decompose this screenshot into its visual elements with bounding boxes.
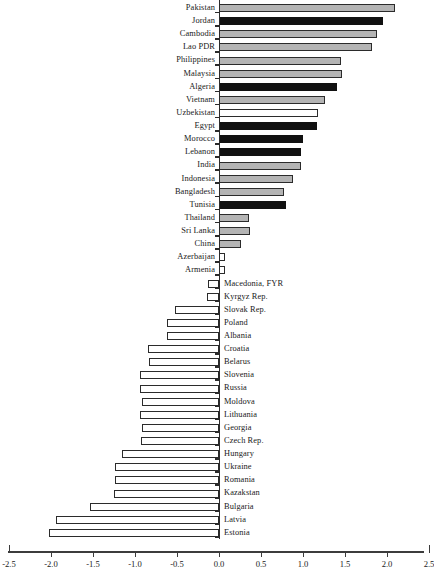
- category-label: Albania: [224, 329, 251, 342]
- category-label: Jordan: [0, 14, 215, 27]
- category-tick: [215, 38, 219, 40]
- bar: [219, 109, 318, 117]
- x-tick: [261, 551, 262, 557]
- category-tick: [215, 379, 219, 381]
- category-label: Macedonia, FYR: [224, 277, 283, 290]
- category-label: Cambodia: [0, 27, 215, 40]
- category-tick: [215, 392, 219, 394]
- category-tick: [215, 471, 219, 473]
- category-tick: [215, 366, 219, 368]
- category-tick: [215, 287, 219, 289]
- category-tick: [215, 64, 219, 66]
- bar: [219, 162, 301, 170]
- category-label: Moldova: [224, 395, 255, 408]
- category-label: Lebanon: [0, 145, 215, 158]
- category-tick: [215, 419, 219, 421]
- bar: [219, 135, 303, 143]
- category-label: Bulgaria: [224, 500, 254, 513]
- x-tick: [135, 551, 136, 557]
- category-tick: [215, 406, 219, 408]
- category-label: Georgia: [224, 421, 252, 434]
- category-tick: [215, 156, 219, 158]
- category-tick: [215, 78, 219, 80]
- bar: [140, 411, 219, 419]
- x-tick-label: 0.5: [256, 559, 267, 569]
- bar: [219, 188, 284, 196]
- category-label: Ukraine: [224, 460, 252, 473]
- category-label: Indonesia: [0, 172, 215, 185]
- category-tick: [215, 432, 219, 434]
- category-tick: [215, 314, 219, 316]
- bar: [219, 201, 286, 209]
- bar: [219, 57, 341, 65]
- bar: [56, 516, 219, 524]
- x-tick-label: -2.5: [2, 559, 16, 569]
- bar: [148, 345, 219, 353]
- bar: [219, 30, 377, 38]
- category-label: Armenia: [0, 263, 215, 276]
- category-tick: [215, 104, 219, 106]
- category-label: Pakistan: [0, 1, 215, 14]
- category-label: Slovak Rep.: [224, 303, 266, 316]
- category-tick: [215, 510, 219, 512]
- x-tick: [429, 545, 430, 553]
- category-tick: [215, 25, 219, 27]
- bar: [115, 463, 219, 471]
- x-tick-label: -1.0: [128, 559, 142, 569]
- category-label: Belarus: [224, 355, 250, 368]
- category-tick: [215, 340, 219, 342]
- category-tick: [215, 169, 219, 171]
- category-label: Romania: [224, 473, 255, 486]
- x-tick-label: -1.5: [86, 559, 100, 569]
- category-tick: [215, 484, 219, 486]
- bar: [219, 4, 395, 12]
- category-label: Algeria: [0, 80, 215, 93]
- category-label: Tunisia: [0, 198, 215, 211]
- category-tick: [215, 301, 219, 303]
- bar: [175, 306, 219, 314]
- category-tick: [215, 524, 219, 526]
- bar: [142, 398, 219, 406]
- category-label: Czech Rep.: [224, 434, 264, 447]
- bar: [219, 122, 317, 130]
- category-tick: [215, 274, 219, 276]
- x-tick-label: 2.5: [424, 559, 434, 569]
- category-label: India: [0, 158, 215, 171]
- bar: [219, 240, 241, 248]
- category-label: Kyrgyz Rep.: [224, 290, 268, 303]
- category-label: Estonia: [224, 526, 250, 539]
- x-tick: [177, 551, 178, 557]
- x-axis-line: [8, 551, 424, 553]
- category-label: Uzbekistan: [0, 106, 215, 119]
- category-label: China: [0, 237, 215, 250]
- plot-area: PakistanJordanCambodiaLao PDRPhilippines…: [0, 0, 432, 551]
- category-label: Egypt: [0, 119, 215, 132]
- category-label: Russia: [224, 381, 247, 394]
- bar: [219, 70, 342, 78]
- zero-axis-line: [219, 0, 220, 539]
- x-tick: [51, 551, 52, 557]
- category-label: Poland: [224, 316, 248, 329]
- category-tick: [215, 222, 219, 224]
- category-label: Kazakstan: [224, 486, 260, 499]
- category-label: Lao PDR: [0, 40, 215, 53]
- bar: [141, 437, 219, 445]
- bar: [219, 17, 383, 25]
- category-tick: [215, 209, 219, 211]
- bar: [114, 490, 219, 498]
- x-tick: [345, 551, 346, 557]
- bar: [167, 332, 219, 340]
- bar: [140, 385, 219, 393]
- bar: [219, 214, 249, 222]
- category-label: Lithuania: [224, 408, 257, 421]
- category-tick: [215, 327, 219, 329]
- category-label: Malaysia: [0, 67, 215, 80]
- bar: [115, 476, 219, 484]
- category-tick: [215, 117, 219, 119]
- bar: [219, 43, 372, 51]
- category-tick: [215, 537, 219, 539]
- bar: [142, 424, 219, 432]
- category-label: Bangladesh: [0, 185, 215, 198]
- x-tick: [9, 545, 10, 553]
- bar: [208, 280, 219, 288]
